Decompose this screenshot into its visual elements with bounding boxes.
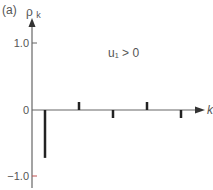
panel-label: (a) xyxy=(2,3,17,17)
x-axis-label: k xyxy=(207,103,213,117)
ytick-label-0: 0 xyxy=(23,104,29,116)
y-axis-label: ρ k xyxy=(26,5,41,20)
x-axis-arrow-icon xyxy=(195,107,205,114)
ytick-label-neg1: −1.0 xyxy=(7,170,29,182)
ytick-label-1: 1.0 xyxy=(14,37,29,49)
annotation-u1: u₁ > 0 xyxy=(108,46,139,60)
y-axis-arrow-icon xyxy=(29,18,36,27)
autocorrelation-chart: (a) ρ k 1.0 0 −1.0 k u₁ > 0 xyxy=(0,0,213,190)
